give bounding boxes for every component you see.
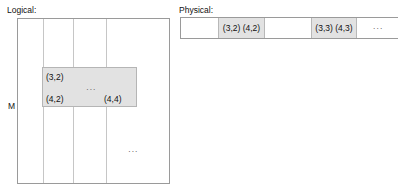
physical-cell-2 xyxy=(265,18,312,38)
physical-cell-0 xyxy=(181,18,219,38)
physical-cell-3: (3,3) (4,3) xyxy=(312,18,357,38)
logical-lower-ellipsis: ··· xyxy=(128,147,138,156)
physical-cell-label-4: ··· xyxy=(370,23,386,33)
physical-cell-1: (3,2) (4,2) xyxy=(219,18,265,38)
physical-caption: Physical: xyxy=(179,6,213,15)
logical-cell-label-4-4: (4,4) xyxy=(104,95,121,104)
logical-highlight-ellipsis: ··· xyxy=(86,85,96,94)
physical-cell-label-1: (3,2) (4,2) xyxy=(220,23,263,33)
physical-memory-bar: (3,2) (4,2)(3,3) (4,3)··· xyxy=(180,17,398,39)
logical-cell-label-4-2: (4,2) xyxy=(46,95,63,104)
logical-caption: Logical: xyxy=(7,6,36,15)
logical-cell-label-3-2: (3,2) xyxy=(46,73,63,82)
physical-cell-label-3: (3,3) (4,3) xyxy=(312,23,355,33)
physical-cell-4: ··· xyxy=(357,18,399,38)
logical-row-axis-label: M xyxy=(8,102,15,111)
